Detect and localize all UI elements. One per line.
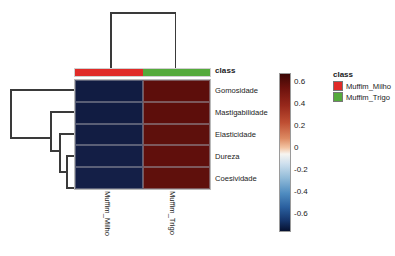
heatmap-cell — [143, 167, 211, 189]
row-dendro-root-top — [10, 89, 74, 91]
legend-swatch-icon — [333, 92, 343, 102]
heatmap-cell — [75, 145, 143, 167]
column-dendro-leaf-left — [110, 12, 112, 68]
colorbar-ticks: 0.6 0.4 0.2 0 -0.2 -0.4 -0.6 — [294, 73, 320, 232]
column-dendrogram — [74, 10, 211, 68]
column-labels: Muffim_Milho Muffim_Trigo — [74, 191, 211, 251]
row-dendro-nodeC-top — [66, 155, 74, 157]
colorbar-tick: -0.2 — [294, 166, 308, 174]
heatmap-grid — [74, 79, 211, 190]
colorbar-gradient — [279, 73, 291, 232]
column-label: Muffim_Milho — [103, 191, 112, 236]
heatmap-cell — [75, 167, 143, 189]
row-dendro-nodeB-stem — [59, 133, 61, 172]
row-dendro-nodeB-top — [59, 133, 74, 135]
class-segment-muffim-milho — [75, 69, 143, 76]
row-dendrogram — [6, 78, 74, 190]
column-dendro-crossbar — [110, 12, 176, 14]
row-label: Gomosidade — [215, 79, 305, 101]
heatmap-cell — [143, 80, 211, 102]
row-dendro-nodeC-stem — [66, 155, 68, 188]
class-legend: class Muffim_Milho Muffim_Trigo — [333, 70, 395, 103]
heatmap-cell — [75, 80, 143, 102]
class-annotation-bar — [74, 68, 211, 77]
heatmap-cell — [75, 124, 143, 146]
column-label: Muffim_Trigo — [168, 191, 177, 235]
colorbar-tick: -0.6 — [294, 210, 308, 218]
heatmap-figure: class Gomosidade Mastigabilidade Elastic… — [0, 0, 395, 256]
colorbar-tick: -0.4 — [294, 188, 308, 196]
row-labels: Gomosidade Mastigabilidade Elasticidade … — [215, 79, 305, 190]
column-dendro-leaf-right — [175, 12, 177, 68]
legend-swatch-icon — [333, 81, 343, 91]
heatmap-cell — [143, 124, 211, 146]
heatmap-cell — [143, 102, 211, 124]
legend-item-muffim-trigo: Muffim_Trigo — [333, 92, 395, 102]
class-annotation-label: class — [215, 66, 236, 75]
colorbar — [279, 73, 291, 232]
legend-item-muffim-milho: Muffim_Milho — [333, 81, 395, 91]
row-label: Dureza — [215, 146, 305, 168]
legend-title: class — [333, 70, 395, 79]
class-segment-muffim-trigo — [143, 69, 211, 76]
row-dendro-nodeC-bottom — [66, 187, 74, 189]
row-dendro-root-bottom — [10, 137, 51, 139]
colorbar-tick: 0.2 — [294, 122, 305, 130]
legend-item-label: Muffim_Milho — [346, 82, 391, 91]
colorbar-tick: 0.6 — [294, 78, 305, 86]
row-label: Mastigabilidade — [215, 101, 305, 123]
row-dendro-nodeA-top — [50, 111, 74, 113]
row-dendro-root-stem — [10, 89, 12, 138]
legend-item-label: Muffim_Trigo — [346, 93, 390, 102]
row-dendro-nodeA-stem — [50, 111, 52, 151]
heatmap-cell — [75, 102, 143, 124]
colorbar-tick: 0.4 — [294, 100, 305, 108]
row-label: Coesividade — [215, 168, 305, 190]
colorbar-tick: 0 — [294, 144, 298, 152]
row-label: Elasticidade — [215, 123, 305, 145]
heatmap-cell — [143, 145, 211, 167]
